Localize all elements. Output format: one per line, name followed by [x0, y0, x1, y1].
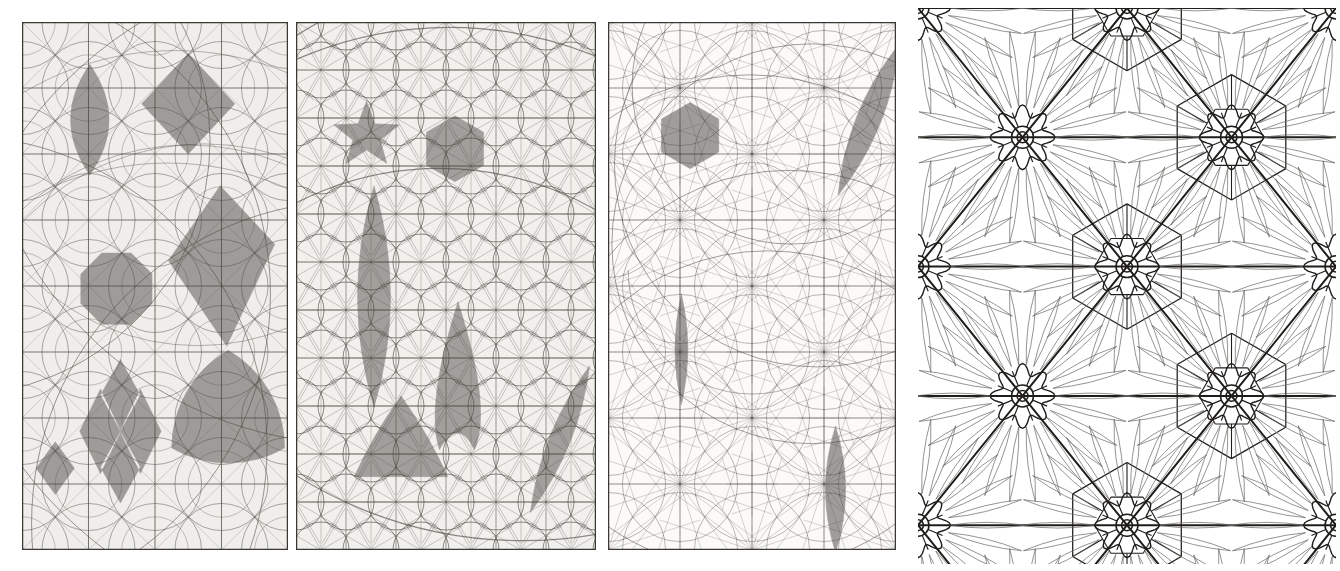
- construction-grid-radial-canvas: [608, 22, 896, 550]
- panel-floral-rosette-tessellation: [918, 8, 1336, 564]
- geometric-plate: [0, 0, 1340, 571]
- construction-grid-hex-lattice-canvas: [296, 22, 596, 550]
- floral-rosette-tessellation-canvas: [918, 8, 1336, 564]
- panel-construction-square-lattice: [22, 22, 288, 550]
- construction-grid-square-lattice-canvas: [22, 22, 288, 550]
- panel-construction-radial: [608, 22, 896, 550]
- panel-construction-hex-lattice: [296, 22, 596, 550]
